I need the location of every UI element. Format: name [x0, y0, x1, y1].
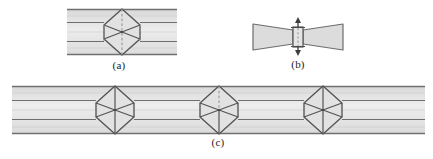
panel-a-node-center-dot [121, 31, 123, 33]
panel-b [253, 17, 343, 56]
panel-a [67, 9, 177, 55]
panel-c-caption: (c) [188, 136, 248, 148]
figure-root: (a) (b) (c) [0, 0, 433, 159]
panel-c [12, 86, 425, 134]
panel-b-top-arrow-head-icon [295, 17, 301, 23]
panel-b-caption: (b) [268, 58, 328, 70]
panel-a-caption: (a) [89, 59, 149, 71]
panel-b-right-wedge [303, 24, 343, 50]
panel-b-left-wedge [253, 24, 293, 50]
panel-c-node-1-center-dot [114, 109, 116, 111]
panel-b-bottom-arrow-head-icon [295, 50, 301, 56]
panel-c-node-2-center-dot [218, 109, 220, 111]
panel-c-node-3-center-dot [322, 109, 324, 111]
